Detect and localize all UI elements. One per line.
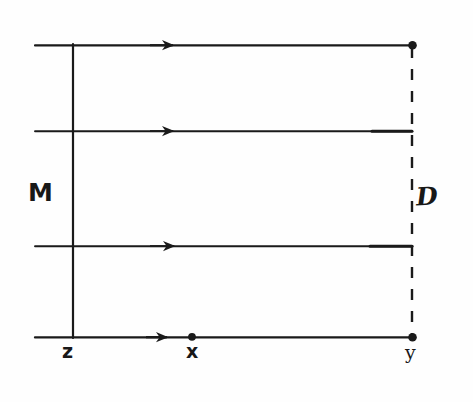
label-z: z [62,342,73,361]
label-D: D [415,183,438,209]
label-y: y [405,343,416,362]
top-right-point-dot [408,41,417,50]
label-M: M [28,180,53,205]
ray-diagram-figure: M D z x y [0,0,473,402]
label-x: x [186,342,198,361]
